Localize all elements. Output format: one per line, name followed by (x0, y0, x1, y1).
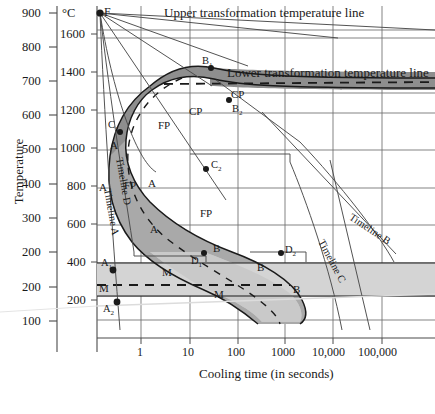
point-label-d2: D2 (285, 245, 296, 258)
zone-label-b-right: B (293, 284, 300, 295)
celsius-tick-200b: 200 (22, 281, 41, 294)
fahrenheit-axis-spine (91, 6, 97, 352)
zone-label-fp-low: FP (200, 208, 212, 219)
celsius-tick-300: 300 (22, 212, 41, 225)
fahrenheit-tick-600: 600 (67, 218, 86, 231)
x-axis-title: Cooling time (in seconds) (199, 367, 334, 380)
lower-transformation-line-label: Lower transformation temperature line (227, 66, 429, 79)
zone-label-a-low: A (148, 178, 156, 189)
zone-label-cp-right: CP (231, 89, 244, 100)
celsius-unit-label: °C (62, 7, 75, 20)
celsius-tick-900: 900 (22, 7, 41, 20)
zone-label-m-left: M (99, 283, 109, 294)
celsius-tick-200: 200 (22, 246, 41, 259)
celsius-tick-600: 600 (22, 109, 41, 122)
celsius-axis-spine (49, 6, 57, 352)
x-tick-100000: 100,000 (358, 346, 397, 358)
point-label-b1: B1 (202, 56, 213, 69)
x-tick-10: 10 (182, 346, 194, 358)
point-label-c1: C1 (108, 120, 119, 133)
point-a2-dot (114, 299, 121, 306)
timeline-extra-2 (330, 160, 370, 330)
zone-label-m-top: M (162, 267, 172, 278)
point-label-b2: B2 (232, 104, 243, 117)
fahrenheit-tick-1200: 1200 (60, 104, 85, 117)
zone-label-cp-left: CP (189, 106, 202, 117)
fahrenheit-tick-1400: 1400 (60, 66, 85, 79)
y-axis-title: Temperature (12, 127, 25, 217)
zone-label-b-left: B (213, 243, 220, 254)
zone-label-m-bottom: M (214, 289, 224, 300)
point-label-f: F (104, 6, 111, 18)
zone-label-a-low2: A (150, 224, 158, 235)
x-tick-1: 1 (137, 346, 143, 358)
fahrenheit-tick-200: 200 (67, 294, 86, 307)
point-d2-dot (278, 250, 284, 256)
zone-label-a-upper: A (110, 140, 118, 151)
point-label-a2: A2 (103, 304, 114, 317)
point-label-d1: D1 (191, 256, 202, 269)
x-tick-10000: 10,000 (312, 346, 345, 358)
x-tick-1000: 1000 (271, 346, 295, 358)
x-axis-spine (97, 338, 435, 344)
celsius-tick-800: 800 (22, 41, 41, 54)
zone-label-b-mid: B (257, 262, 264, 273)
celsius-tick-100: 100 (22, 315, 41, 328)
point-c2-dot (203, 166, 209, 172)
point-label-a1: A1 (101, 258, 112, 271)
upper-transformation-line-label: Upper transformation temperature line (164, 6, 364, 19)
x-tick-100: 100 (227, 346, 245, 358)
zone-label-fp-top: FP (158, 120, 170, 131)
celsius-tick-700: 700 (22, 75, 41, 88)
timeline-ray-3 (100, 13, 212, 86)
fahrenheit-tick-400: 400 (67, 256, 86, 269)
ttt-diagram: 900 800 700 600 500 400 300 200 100 200 … (0, 0, 435, 414)
fahrenheit-tick-1600: 1600 (60, 28, 85, 41)
fahrenheit-tick-1000: 1000 (60, 142, 85, 155)
point-label-c2: C2 (211, 160, 222, 173)
fahrenheit-tick-800: 800 (67, 180, 86, 193)
point-f-dot (96, 9, 103, 16)
